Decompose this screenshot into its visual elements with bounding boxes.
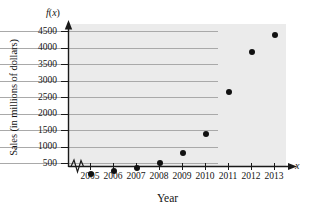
ytick-label: 4000 (17, 43, 57, 53)
data-point (203, 131, 209, 137)
ytick-mark-2000 (61, 114, 69, 115)
data-point (226, 89, 232, 95)
ytick-label: 1000 (17, 142, 57, 152)
ytick-label: 3000 (17, 76, 57, 86)
data-point (157, 160, 163, 166)
ytick-mark-1000 (61, 147, 69, 148)
ytick-mark-3000 (61, 81, 69, 82)
function-paren-close: ) (57, 7, 60, 18)
ytick-mark-4000 (61, 48, 69, 49)
ytick-label: 1500 (17, 126, 57, 136)
data-point (272, 32, 278, 38)
ytick-mark-1500 (61, 130, 69, 131)
xtick-mark-2005 (90, 163, 91, 170)
x-variable-label: x (295, 160, 299, 171)
xtick-mark-2012 (251, 163, 252, 170)
ytick-label: 3500 (17, 60, 57, 70)
data-point (134, 165, 140, 171)
xtick-mark-2013 (274, 163, 275, 170)
x-axis-title: Year (0, 192, 309, 204)
ytick-label: 2000 (17, 109, 57, 119)
data-point (180, 150, 186, 156)
ytick-label: 500 (17, 159, 57, 169)
xtick-mark-2009 (182, 163, 183, 170)
xtick-mark-2011 (228, 163, 229, 170)
y-axis-title: Sales (in millions of dollars) (8, 23, 19, 173)
data-point (88, 171, 94, 177)
ytick-mark-500 (61, 163, 69, 164)
ytick-mark-4500 (61, 31, 69, 32)
function-axis-label: f(x) (46, 7, 60, 18)
xtick-mark-2010 (205, 163, 206, 170)
sales-scatter-chart: 4500 4000 3500 3000 2500 2000 1500 1000 … (0, 0, 309, 215)
ytick-mark-3500 (61, 64, 69, 65)
ytick-label: 4500 (17, 27, 57, 37)
data-point (249, 49, 255, 55)
data-point (111, 168, 117, 174)
x-axis-title-text: Year (131, 192, 178, 204)
xtick-label: 2013 (257, 172, 291, 182)
ytick-mark-2500 (61, 97, 69, 98)
ytick-label: 2500 (17, 93, 57, 103)
